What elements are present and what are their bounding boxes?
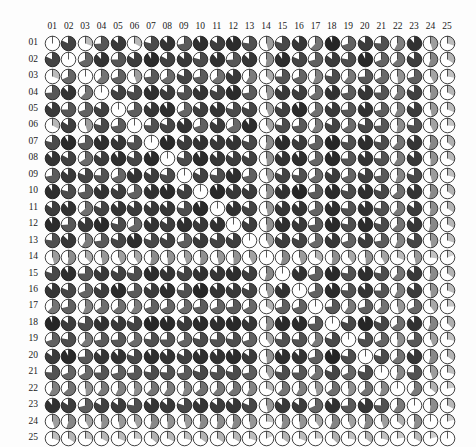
pie-cell	[159, 282, 176, 299]
pie-cell	[291, 348, 308, 365]
pie-cell	[340, 134, 357, 151]
pie-cell-diagonal	[44, 35, 61, 52]
pie-cell	[110, 331, 127, 348]
pie-cell	[258, 35, 275, 52]
pie-cell	[357, 200, 374, 217]
pie-cell	[209, 51, 226, 68]
pie-cell	[159, 364, 176, 381]
pie-cell	[241, 282, 258, 299]
pie-cell	[143, 298, 160, 315]
pie-cell	[406, 348, 423, 365]
pie-cell	[373, 315, 390, 332]
pie-cell	[110, 68, 127, 85]
pie-cell	[389, 265, 406, 282]
pie-cell	[176, 380, 193, 397]
pie-cell	[159, 84, 176, 101]
column-label-24: 24	[422, 22, 438, 32]
pie-cell	[357, 364, 374, 381]
column-label-20: 20	[357, 22, 373, 32]
pie-cell	[324, 364, 341, 381]
pie-cell-diagonal	[307, 298, 324, 315]
pie-cell	[274, 282, 291, 299]
pie-cell	[241, 101, 258, 118]
pie-cell	[192, 200, 209, 217]
pie-cell	[340, 380, 357, 397]
pie-cell	[225, 101, 242, 118]
column-label-09: 09	[176, 22, 192, 32]
pie-cell	[77, 35, 94, 52]
pie-cell	[159, 68, 176, 85]
pie-cell	[291, 167, 308, 184]
pie-cell	[77, 51, 94, 68]
pie-cell	[357, 282, 374, 299]
pie-cell	[225, 150, 242, 167]
pie-cell	[110, 413, 127, 430]
pie-cell	[422, 183, 439, 200]
pie-cell	[77, 150, 94, 167]
pie-cell	[143, 430, 160, 447]
pie-cell	[225, 249, 242, 266]
row-label-10: 10	[18, 186, 38, 196]
pie-cell	[307, 249, 324, 266]
pie-cell	[60, 134, 77, 151]
pie-cell	[389, 298, 406, 315]
pie-cell-diagonal	[77, 68, 94, 85]
column-label-13: 13	[241, 22, 257, 32]
pie-cell	[422, 298, 439, 315]
pie-cell	[340, 397, 357, 414]
pie-cell	[406, 232, 423, 249]
pie-cell	[77, 331, 94, 348]
pie-cell	[439, 117, 456, 134]
pie-cell	[60, 216, 77, 233]
pie-cell	[225, 397, 242, 414]
pie-cell	[291, 183, 308, 200]
pie-cell	[44, 364, 61, 381]
pie-cell	[389, 331, 406, 348]
pie-cell	[258, 68, 275, 85]
pie-cell	[324, 101, 341, 118]
pie-cell	[77, 84, 94, 101]
pie-cell	[422, 265, 439, 282]
pie-cell	[373, 117, 390, 134]
pie-cell	[192, 315, 209, 332]
pie-cell	[422, 117, 439, 134]
pie-cell	[422, 101, 439, 118]
column-label-04: 04	[93, 22, 109, 32]
pie-cell	[406, 430, 423, 447]
pie-cell	[307, 430, 324, 447]
pie-cell	[373, 265, 390, 282]
pie-cell	[373, 216, 390, 233]
pie-cell	[307, 35, 324, 52]
pie-cell	[93, 35, 110, 52]
pie-cell	[209, 364, 226, 381]
pie-cell	[439, 68, 456, 85]
pie-cell	[110, 315, 127, 332]
pie-cell	[373, 101, 390, 118]
pie-cell	[126, 380, 143, 397]
pie-cell	[274, 315, 291, 332]
pie-cell	[324, 35, 341, 52]
pie-cell-diagonal	[143, 134, 160, 151]
pie-cell	[406, 413, 423, 430]
pie-cell	[209, 117, 226, 134]
pie-cell	[340, 249, 357, 266]
pie-cell	[176, 117, 193, 134]
pie-cell	[274, 380, 291, 397]
pie-cell	[192, 35, 209, 52]
column-label-19: 19	[340, 22, 356, 32]
pie-cell-diagonal	[406, 397, 423, 414]
pie-cell	[324, 216, 341, 233]
pie-cell	[159, 380, 176, 397]
pie-cell	[340, 84, 357, 101]
pie-cell	[60, 35, 77, 52]
pie-cell	[422, 51, 439, 68]
pie-cell	[159, 134, 176, 151]
pie-cell	[389, 117, 406, 134]
row-label-06: 06	[18, 120, 38, 130]
pie-cell	[176, 84, 193, 101]
pie-cell	[258, 298, 275, 315]
pie-cell	[373, 150, 390, 167]
pie-cell	[439, 101, 456, 118]
pie-cell	[340, 200, 357, 217]
pie-cell	[274, 101, 291, 118]
